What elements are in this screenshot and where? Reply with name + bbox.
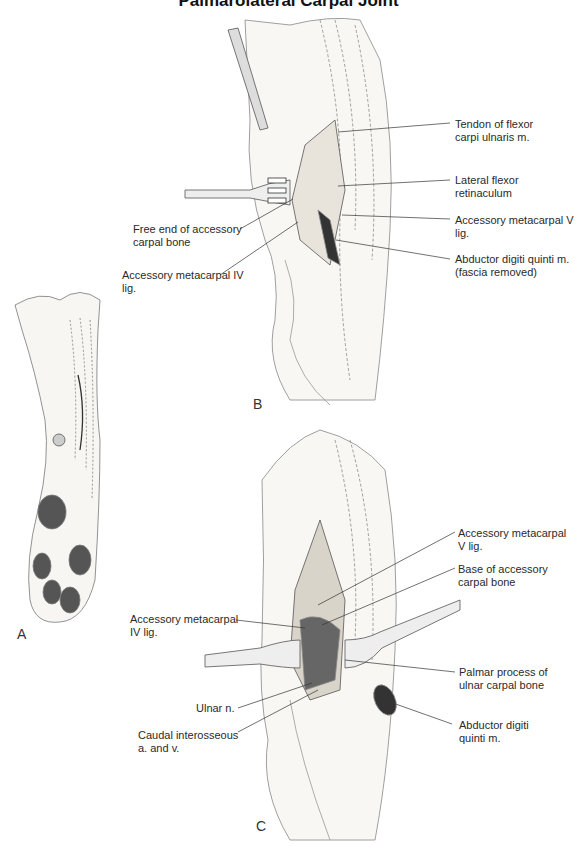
label-caudal-interosseous-a-v: Caudal interosseousa. and v. (138, 729, 238, 755)
label-tendon-flexor-carpi-ulnaris: Tendon of flexorcarpi ulnaris m. (455, 118, 533, 144)
panel-label-b: B (253, 396, 262, 412)
panel-a-paw-drawing (15, 293, 100, 623)
label-accessory-metacarpal-v-lig-c: Accessory metacarpalV lig. (458, 527, 566, 553)
label-accessory-metacarpal-iv-lig-b: Accessory metacarpal IVlig. (122, 269, 244, 295)
label-free-end-accessory-carpal-bone: Free end of accessorycarpal bone (133, 223, 242, 249)
label-lateral-flexor-retinaculum: Lateral flexorretinaculum (455, 174, 519, 200)
label-palmar-process-ulnar-carpal-bone: Palmar process ofulnar carpal bone (459, 666, 548, 692)
panel-label-c: C (256, 818, 266, 834)
panel-label-a: A (17, 626, 26, 642)
label-abductor-digiti-quinti: Abductor digitiquinti m. (459, 719, 529, 745)
label-base-accessory-carpal-bone: Base of accessorycarpal bone (458, 563, 548, 589)
panel-b-drawing (185, 18, 391, 405)
panel-c-drawing (205, 430, 460, 840)
label-abductor-digiti-quinti-fascia-removed: Abductor digiti quinti m.(fascia removed… (455, 253, 569, 279)
label-accessory-metacarpal-v-lig-b: Accessory metacarpal Vlig. (455, 214, 574, 240)
label-ulnar-nerve: Ulnar n. (196, 702, 235, 715)
label-accessory-metacarpal-iv-lig-c: Accessory metacarpalIV lig. (130, 613, 238, 639)
